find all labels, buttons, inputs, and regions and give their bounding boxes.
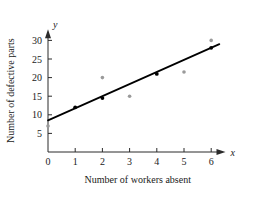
x-tick-label: 3 bbox=[127, 156, 132, 167]
x-axis-symbol: x bbox=[230, 147, 236, 158]
x-tick-label: 2 bbox=[100, 156, 105, 167]
data-point bbox=[128, 94, 132, 98]
axes-group bbox=[45, 29, 226, 155]
x-tick-label: 6 bbox=[209, 156, 214, 167]
x-tick-label: 1 bbox=[73, 156, 78, 167]
y-tick-label: 30 bbox=[32, 35, 42, 46]
data-point-on-line bbox=[155, 72, 159, 76]
data-point-on-line bbox=[209, 46, 213, 50]
plot-canvas: 012345651015202530xyNumber of workers ab… bbox=[0, 0, 263, 198]
y-axis-symbol: y bbox=[52, 19, 58, 30]
y-tick-label: 25 bbox=[32, 54, 42, 65]
y-axis-title: Number of defective parts bbox=[5, 38, 16, 143]
x-ticks-group: 0123456 bbox=[46, 148, 214, 167]
y-axis-arrowhead bbox=[45, 29, 51, 38]
y-ticks-group: 51015202530 bbox=[32, 35, 52, 139]
data-point bbox=[209, 39, 213, 43]
data-point-on-line bbox=[73, 105, 77, 109]
regression-line bbox=[48, 44, 219, 120]
y-tick-label: 10 bbox=[32, 109, 42, 120]
data-point bbox=[46, 124, 50, 128]
scatter-plot-figure: 012345651015202530xyNumber of workers ab… bbox=[0, 0, 263, 198]
x-tick-label: 4 bbox=[154, 156, 159, 167]
data-point bbox=[182, 70, 186, 74]
x-axis-arrowhead bbox=[217, 149, 226, 155]
data-point-on-line bbox=[101, 96, 105, 100]
y-tick-label: 20 bbox=[32, 72, 42, 83]
x-tick-label: 5 bbox=[182, 156, 187, 167]
y-tick-label: 5 bbox=[37, 128, 42, 139]
y-tick-label: 15 bbox=[32, 91, 42, 102]
x-tick-label: 0 bbox=[46, 156, 51, 167]
data-point bbox=[101, 76, 105, 80]
x-axis-title: Number of workers absent bbox=[85, 174, 192, 185]
